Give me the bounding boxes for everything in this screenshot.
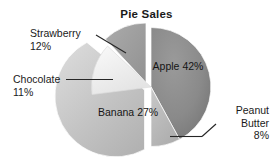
slice-callout-chocolate: Chocolate 11% [13, 73, 60, 98]
slice-label-banana: Banana 27% [98, 106, 158, 119]
pie-chart-figure: Pie Sales [0, 0, 275, 160]
slice-callout-peanut-butter-percent: 8% [236, 129, 269, 142]
slice-callout-peanut-butter-name-line1: Peanut [236, 104, 269, 116]
slice-callout-chocolate-percent: 11% [13, 86, 60, 99]
leader-line-peanut-butter-diagonal [202, 124, 216, 137]
slice-label-apple-name: Apple [153, 60, 180, 72]
slice-callout-peanut-butter-name-line2: Butter [236, 117, 269, 130]
slice-callout-peanut-butter: Peanut Butter 8% [236, 104, 269, 142]
slice-callout-strawberry-percent: 12% [30, 40, 81, 53]
slice-label-banana-name: Banana [98, 106, 134, 118]
slice-label-apple-percent: 42% [182, 60, 203, 72]
slice-label-banana-percent: 27% [137, 106, 158, 118]
slice-label-apple: Apple 42% [148, 60, 208, 73]
slice-callout-strawberry-name: Strawberry [30, 27, 81, 39]
slice-callout-strawberry: Strawberry 12% [30, 27, 81, 52]
slice-callout-chocolate-name: Chocolate [13, 73, 60, 85]
